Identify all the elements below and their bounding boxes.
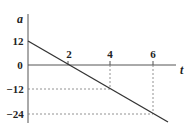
x-tick-label-2: 2 [66,48,72,60]
y-tick-label-minus-24: −24 [6,108,24,120]
acceleration-time-graph: a t 12 0 −12 −24 2 4 6 [0,0,195,136]
x-tick-label-4: 4 [107,48,113,60]
x-tick-label-6: 6 [150,48,156,60]
y-axis-label: a [17,12,23,26]
y-tick-label-minus-12: −12 [6,83,24,95]
x-axis-label: t [180,63,184,77]
data-line-a-of-t [28,41,168,122]
y-tick-label-12: 12 [13,35,25,47]
y-tick-label-0: 0 [17,59,23,71]
